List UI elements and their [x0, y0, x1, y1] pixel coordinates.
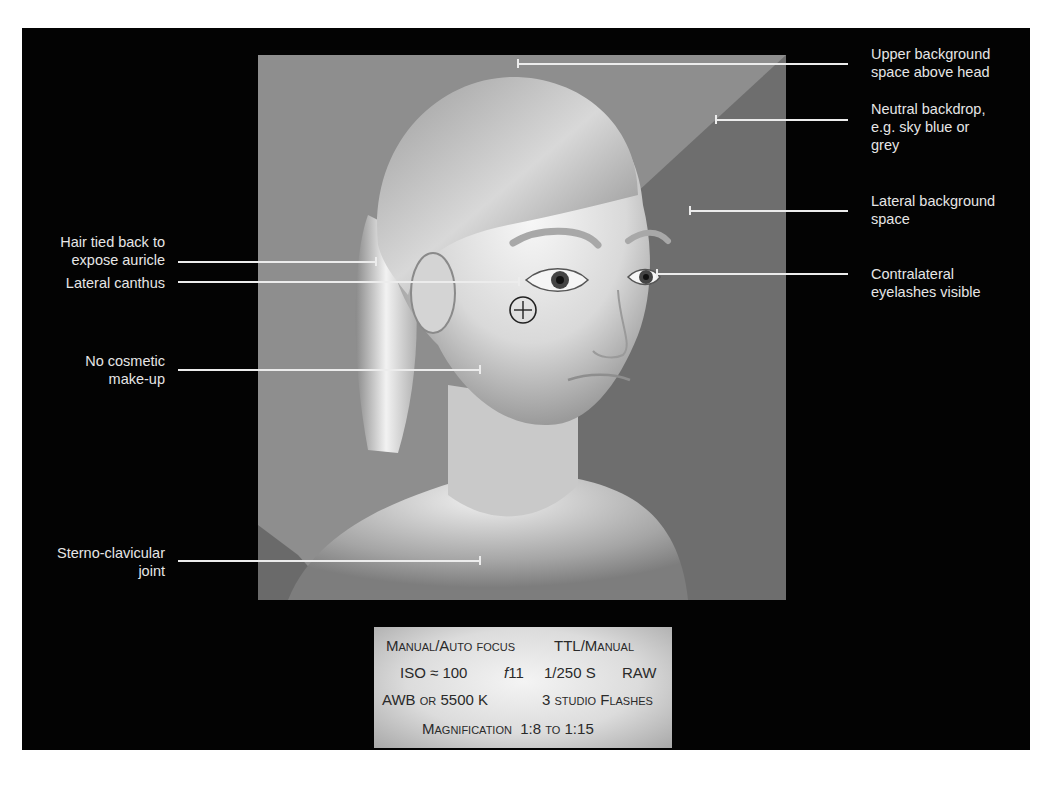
- leader-neutral-backdrop: [716, 119, 848, 121]
- label-lateral-background: Lateral background space: [871, 192, 995, 228]
- leader-lateral-background: [690, 210, 848, 212]
- leader-hair-tied-back: [178, 261, 376, 263]
- leader-no-makeup: [178, 369, 480, 371]
- leader-tick: [479, 365, 481, 374]
- leader-tick: [479, 556, 481, 565]
- label-upper-background: Upper background space above head: [871, 45, 990, 81]
- leader-contralateral-eyelashes: [657, 273, 848, 275]
- label-no-makeup: No cosmetic make-up: [20, 352, 165, 388]
- label-contralateral-eyelashes: Contralateral eyelashes visible: [871, 265, 981, 301]
- leader-tick: [375, 257, 377, 266]
- iso-value: ISO ≈ 100: [400, 664, 467, 681]
- white-balance: AWB or 5500 K: [382, 691, 488, 708]
- camera-settings-box: Manual/Auto focus TTL/Manual ISO ≈ 100 f…: [374, 627, 672, 748]
- label-neutral-backdrop: Neutral backdrop, e.g. sky blue or grey: [871, 100, 985, 154]
- label-sterno-clavicular: Sterno-clavicular joint: [20, 544, 165, 580]
- leader-lateral-canthus: [178, 281, 519, 283]
- leader-tick: [689, 206, 691, 215]
- leader-tick: [518, 277, 520, 286]
- focus-mode: Manual/Auto focus: [386, 637, 515, 654]
- label-hair-tied-back: Hair tied back to expose auricle: [20, 233, 165, 269]
- leader-tick: [715, 115, 717, 124]
- aperture: f11: [504, 664, 524, 681]
- leader-upper-background: [518, 63, 848, 65]
- leader-sterno-clavicular: [178, 560, 480, 562]
- portrait-illustration: [258, 55, 786, 600]
- flash-mode: TTL/Manual: [554, 637, 634, 654]
- file-format: RAW: [622, 664, 656, 681]
- flash-count: 3 studio Flashes: [542, 691, 653, 708]
- label-lateral-canthus: Lateral canthus: [20, 274, 165, 292]
- crosshair-focus-icon: [508, 295, 538, 325]
- shutter-speed: 1/250 S: [544, 664, 596, 681]
- leader-tick: [656, 269, 658, 278]
- magnification: Magnification 1:8 to 1:15: [422, 720, 594, 737]
- portrait-panel: [258, 55, 786, 600]
- leader-tick: [517, 59, 519, 68]
